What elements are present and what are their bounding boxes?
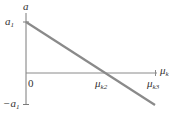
y-tick-label-a1-sub: 1 <box>11 21 15 29</box>
x-tick-label-mu-k2: μk2 <box>95 78 107 91</box>
x-tick-label-mu-k3-sub: k3 <box>153 83 160 91</box>
x-axis-label-sub: k <box>166 70 169 78</box>
y-axis-label: a <box>23 1 29 12</box>
origin-label: 0 <box>28 78 34 89</box>
x-tick-label-mu-k2-sub: k2 <box>101 83 108 91</box>
y-tick-label-neg-a1: −a1 <box>3 98 19 111</box>
y-tick-label-neg-a1-sub: 1 <box>16 103 20 111</box>
data-line <box>26 22 155 105</box>
y-tick-label-a1: a1 <box>5 16 14 29</box>
x-tick-label-mu-k3: μk3 <box>147 78 159 91</box>
x-axis-label: μk <box>160 65 169 78</box>
chart-plot-area <box>0 0 182 115</box>
y-tick-label-neg-a1-main: −a <box>3 97 16 109</box>
